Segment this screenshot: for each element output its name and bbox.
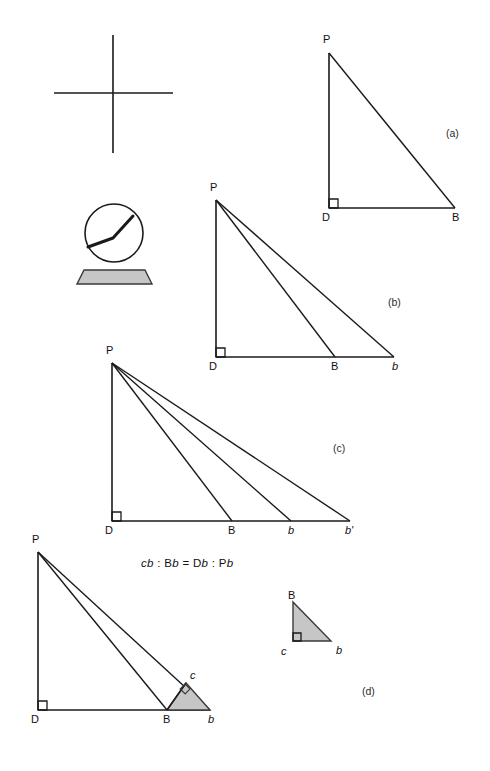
- geometry-canvas: [0, 0, 490, 771]
- formula-token: D: [193, 557, 202, 569]
- panel-caption-b: (b): [388, 297, 401, 308]
- formula-token: =: [179, 557, 193, 569]
- detail-label-b: b: [336, 645, 342, 656]
- panel-c-ray-P-B: [112, 363, 232, 521]
- panel-a-right-angle-marker: [329, 199, 338, 208]
- detail-triangle-shape: [293, 602, 331, 641]
- figure-root: PDB(a)PDBb(b)PDBbb'(c)PDBbc(d)Bcbcb : Bb…: [0, 0, 490, 771]
- panel-b-ray-P-B: [216, 200, 335, 357]
- panel-d-label-P: P: [32, 534, 39, 545]
- panel-c-label-B: B: [228, 525, 235, 536]
- panel-b-label-P: P: [210, 182, 217, 193]
- panel-c-label-b: b: [288, 525, 294, 536]
- panel-c-label-D: D: [105, 525, 113, 536]
- formula-token: P: [219, 557, 227, 569]
- panel-d-ray-P-B: [38, 552, 167, 710]
- panel-caption-a: (a): [446, 128, 459, 139]
- panel-d-label-c: c: [190, 670, 196, 681]
- panel-c-label-P: P: [106, 345, 113, 356]
- panel-c-ray-P-bprime: [112, 363, 350, 521]
- panel-a-ray-P-B: [329, 53, 455, 208]
- panel-b-label-b: b: [392, 361, 398, 372]
- panel-d-label-B: B: [163, 714, 170, 725]
- dial-circle: [85, 204, 143, 262]
- panel-d-label-b: b: [208, 714, 214, 725]
- panel-caption-c: (c): [333, 443, 345, 454]
- panel-b-label-D: D: [209, 361, 217, 372]
- panel-b-ray-P-b: [216, 200, 394, 357]
- panel-caption-d: (d): [362, 686, 375, 697]
- panel-b-right-angle-marker: [216, 348, 225, 357]
- formula-token: :: [154, 557, 165, 569]
- panel-a-label-B: B: [452, 212, 459, 223]
- panel-a-label-P: P: [323, 34, 330, 45]
- panel-a-label-D: D: [322, 212, 330, 223]
- panel-c-ray-P-b: [112, 363, 291, 521]
- formula-token: :: [208, 557, 219, 569]
- detail-label-c: c: [281, 646, 287, 657]
- panel-c-right-angle-marker: [112, 512, 121, 521]
- panel-b-label-B: B: [331, 361, 338, 372]
- detail-label-B: B: [288, 590, 295, 601]
- panel-d-label-D: D: [31, 714, 39, 725]
- panel-c-label-bprime: b': [345, 525, 353, 536]
- formula-token: b: [227, 557, 234, 569]
- formula-token: b: [147, 557, 154, 569]
- panel-d-right-angle-marker: [38, 701, 47, 710]
- proportion-formula: cb : Bb = Db : Pb: [141, 558, 233, 570]
- formula-token: b: [172, 557, 179, 569]
- dial-base: [77, 270, 152, 284]
